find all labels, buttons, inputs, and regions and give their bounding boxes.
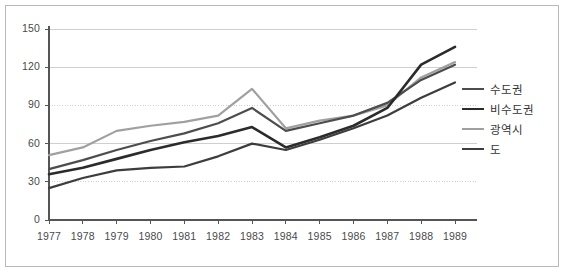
- chart-legend: 수도권비수도권광역시도: [462, 79, 558, 159]
- x-tick-label: 1978: [66, 230, 100, 242]
- legend-item: 도: [462, 139, 558, 159]
- y-tick-label: 30: [10, 175, 40, 187]
- axis-lines: [49, 26, 477, 220]
- legend-swatch-icon: [462, 148, 484, 150]
- legend-swatch-icon: [462, 108, 484, 110]
- y-tick-label: 0: [10, 213, 40, 225]
- x-tick-label: 1987: [370, 230, 404, 242]
- legend-swatch-icon: [462, 128, 484, 130]
- y-tick-label: 120: [10, 60, 40, 72]
- y-tick-label: 60: [10, 137, 40, 149]
- x-tick-label: 1982: [201, 230, 235, 242]
- series-line: [49, 47, 455, 174]
- series-line: [49, 65, 455, 169]
- x-tick-label: 1985: [303, 230, 337, 242]
- legend-swatch-icon: [462, 88, 484, 90]
- x-tick-label: 1986: [337, 230, 371, 242]
- legend-item: 수도권: [462, 79, 558, 99]
- y-tick-label: 90: [10, 98, 40, 110]
- x-tick-label: 1983: [235, 230, 269, 242]
- x-tick-label: 1980: [134, 230, 168, 242]
- y-tick-label: 150: [10, 22, 40, 34]
- legend-item: 광역시: [462, 119, 558, 139]
- x-tick-label: 1984: [269, 230, 303, 242]
- x-tick-label: 1977: [32, 230, 66, 242]
- legend-label: 비수도권: [490, 101, 534, 117]
- legend-label: 광역시: [490, 121, 523, 137]
- data-series-group: [49, 47, 455, 188]
- legend-label: 수도권: [490, 81, 523, 97]
- x-tick-label: 1988: [404, 230, 438, 242]
- legend-item: 비수도권: [462, 99, 558, 119]
- x-tick-label: 1989: [438, 230, 472, 242]
- x-tick-label: 1979: [100, 230, 134, 242]
- x-tick-label: 1981: [167, 230, 201, 242]
- chart-figure: 1501209060300 19771978197919801981198219…: [0, 0, 564, 280]
- legend-label: 도: [490, 141, 501, 157]
